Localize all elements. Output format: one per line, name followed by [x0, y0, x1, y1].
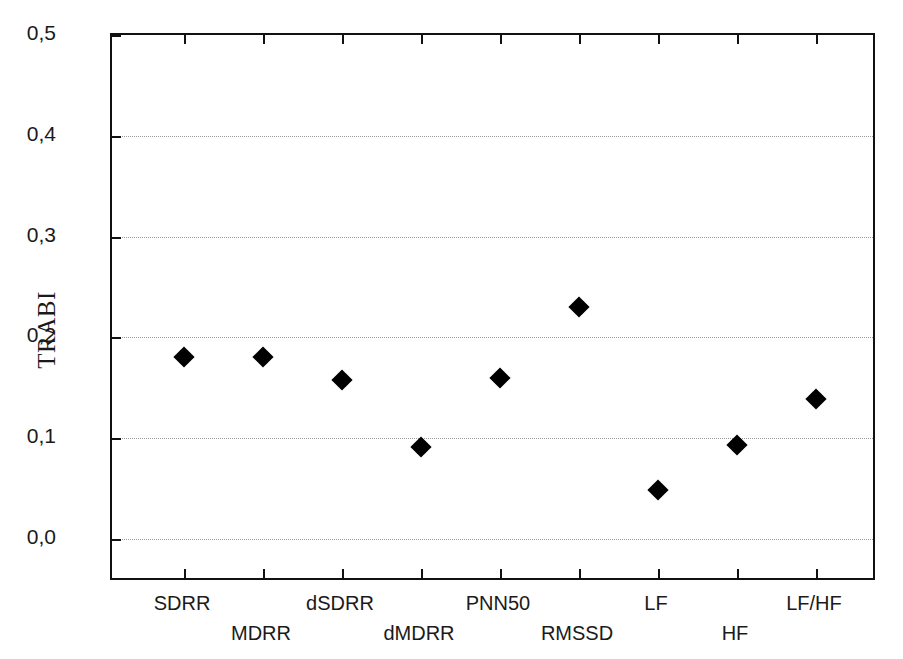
x-axis-category-label: MDRR	[231, 622, 291, 645]
y-axis-tick-label: 0,2	[27, 323, 56, 347]
y-axis-tick-label: 0,3	[27, 223, 56, 247]
y-axis-tick	[112, 136, 121, 138]
gridline	[112, 539, 873, 540]
y-axis-tick	[112, 438, 121, 440]
data-point	[647, 479, 668, 500]
y-axis-tick-label: 0,0	[27, 525, 56, 549]
x-axis-category-label: PNN50	[466, 592, 530, 615]
gridline	[112, 237, 873, 238]
gridline	[112, 136, 873, 137]
data-point	[331, 369, 352, 390]
x-axis-tick-top	[500, 35, 502, 44]
x-axis-tick	[184, 569, 186, 578]
gridline	[112, 337, 873, 338]
x-axis-category-label: RMSSD	[541, 622, 613, 645]
x-axis-tick	[263, 569, 265, 578]
x-axis-tick	[737, 569, 739, 578]
x-axis-tick-top	[263, 35, 265, 44]
x-axis-tick	[421, 569, 423, 578]
x-axis-tick	[579, 569, 581, 578]
y-axis-tick-label: 0,1	[27, 424, 56, 448]
y-axis-tick	[112, 237, 121, 239]
x-axis-category-label: dSDRR	[306, 592, 374, 615]
x-axis-tick-top	[658, 35, 660, 44]
x-axis-tick	[342, 569, 344, 578]
x-axis-tick-top	[579, 35, 581, 44]
x-axis-tick-top	[421, 35, 423, 44]
x-axis-category-label: LF	[644, 592, 667, 615]
y-axis-tick-label: 0,5	[27, 21, 56, 45]
gridline	[112, 438, 873, 439]
data-point	[173, 346, 194, 367]
data-point	[489, 367, 510, 388]
x-axis-tick-top	[342, 35, 344, 44]
x-axis-tick	[658, 569, 660, 578]
x-axis-tick	[816, 569, 818, 578]
y-axis-tick	[112, 35, 121, 37]
y-axis-tick	[112, 337, 121, 339]
data-point	[805, 388, 826, 409]
y-axis-tick	[112, 539, 121, 541]
x-axis-tick-top	[816, 35, 818, 44]
data-point	[568, 297, 589, 318]
chart-page: TRABI 0,00,10,20,30,40,5 SDRRMDRRdSDRRdM…	[0, 0, 903, 659]
x-axis-tick-top	[184, 35, 186, 44]
plot-area	[110, 33, 875, 580]
x-axis-category-label: dMDRR	[383, 622, 454, 645]
data-point	[252, 346, 273, 367]
x-axis-category-label: LF/HF	[786, 592, 842, 615]
data-point	[410, 437, 431, 458]
x-axis-category-label: SDRR	[154, 592, 211, 615]
x-axis-tick	[500, 569, 502, 578]
y-axis-tick-label: 0,4	[27, 122, 56, 146]
x-axis-category-label: HF	[722, 622, 749, 645]
x-axis-tick-top	[737, 35, 739, 44]
